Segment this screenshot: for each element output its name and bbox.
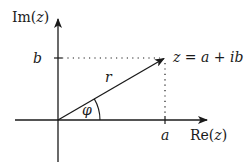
point-label: z = a + ib — [173, 50, 243, 64]
angle-arc — [94, 99, 100, 120]
im-prefix: Im( — [12, 9, 36, 25]
vector-r — [58, 59, 164, 121]
re-var: z — [214, 127, 221, 143]
r-label: r — [105, 70, 112, 84]
imaginary-axis-label: Im(z) — [12, 10, 49, 24]
im-var: z — [36, 9, 43, 25]
a-label: a — [161, 128, 169, 142]
real-axis-label: Re(z) — [190, 128, 227, 142]
re-suffix: ) — [222, 127, 227, 143]
b-label: b — [33, 51, 42, 65]
phi-label: φ — [82, 103, 92, 117]
im-suffix: ) — [44, 9, 49, 25]
re-prefix: Re( — [190, 127, 214, 143]
